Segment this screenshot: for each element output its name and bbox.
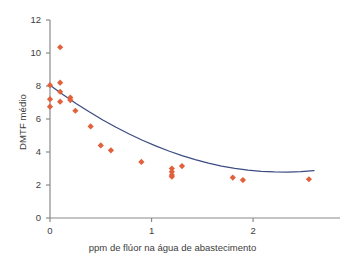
chart-container: 024681012 012 DMTF médio ppm de flúor na… [0,0,345,266]
x-axis-title: ppm de flúor na água de abastecimento [0,242,345,253]
y-axis-title: DMTF médio [17,94,28,150]
data-point-marker [108,147,114,153]
data-point-marker [179,163,185,169]
y-axis-tick-label: 8 [19,81,41,91]
fitted-curve-group [50,85,314,172]
data-point-marker [138,159,144,165]
y-axis-tick-label: 2 [19,180,41,190]
x-axis-tick-label: 2 [243,226,263,236]
data-point-marker [47,96,53,102]
axes-group [46,20,340,222]
y-axis-tick-label: 0 [19,213,41,223]
y-axis-tick-label: 10 [19,48,41,58]
data-point-marker [306,176,312,182]
data-point-marker [47,104,53,110]
data-point-marker [72,108,78,114]
x-axis-tick-label: 0 [40,226,60,236]
y-axis-tick-label: 12 [19,15,41,25]
fitted-curve [50,85,314,172]
data-point-marker [57,80,63,86]
data-points-group [47,44,312,183]
data-point-marker [57,44,63,50]
data-point-marker [57,99,63,105]
data-point-marker [88,123,94,129]
data-point-marker [98,142,104,148]
data-point-marker [230,174,236,180]
x-axis-tick-label: 1 [142,226,162,236]
data-point-marker [240,177,246,183]
